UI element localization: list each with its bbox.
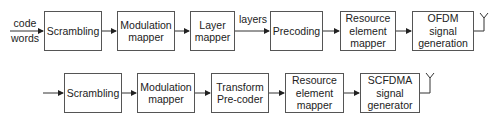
block-label-line1: SCFDMA: [368, 74, 413, 87]
block-label-line1: Modulation: [140, 81, 191, 94]
block-ofdm-signal-generation: OFDM signalgeneration: [412, 11, 474, 51]
block-label: Precoding: [273, 25, 320, 38]
block-label-line1: OFDM signal: [413, 12, 473, 37]
antenna-icon: [479, 11, 489, 31]
block-label-line2: mapper: [120, 31, 171, 44]
block-modulation-mapper-1: Modulationmapper: [117, 11, 175, 51]
input-label-line2: words: [8, 32, 42, 44]
block-label-line2: Pre-coder: [216, 93, 263, 106]
block-label-line2: signal: [368, 87, 413, 100]
block-transform-precoder: TransformPre-coder: [211, 73, 269, 113]
block-scfdma-signal-generator: SCFDMAsignalgenerator: [360, 73, 420, 113]
block-label: Scrambling: [67, 87, 120, 100]
block-label-line2: element: [292, 87, 337, 100]
block-label-line2: mapper: [195, 31, 231, 44]
edge-label-layers: layers: [238, 13, 268, 25]
block-label-line1: Transform: [216, 81, 263, 94]
block-precoding: Precoding: [270, 11, 323, 51]
block-resource-element-mapper-2: Resourceelementmapper: [285, 73, 344, 113]
block-label: Scrambling: [47, 25, 100, 38]
block-label-line3: generator: [368, 99, 413, 112]
block-resource-element-mapper-1: Resourceelementmapper: [340, 11, 396, 51]
antenna-icon: [425, 73, 435, 93]
block-label-line1: Resource: [292, 74, 337, 87]
block-label-line2: generation: [413, 37, 473, 50]
block-label-line2: element: [346, 25, 391, 38]
block-label-line1: Resource: [346, 12, 391, 25]
block-label-line3: mapper: [346, 37, 391, 50]
block-label-line2: mapper: [140, 93, 191, 106]
block-scrambling-1: Scrambling: [44, 11, 102, 51]
block-label-line3: mapper: [292, 99, 337, 112]
input-label-line1: code: [8, 17, 42, 29]
block-label-line1: Layer: [195, 19, 231, 32]
input-label-codewords: code words: [8, 17, 42, 44]
block-modulation-mapper-2: Modulationmapper: [137, 73, 195, 113]
block-scrambling-2: Scrambling: [64, 73, 122, 113]
block-layer-mapper: Layermapper: [190, 11, 235, 51]
block-label-line1: Modulation: [120, 19, 171, 32]
